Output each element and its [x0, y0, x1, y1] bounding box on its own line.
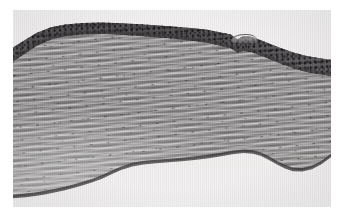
histology-micrograph — [13, 10, 331, 207]
figure-page — [0, 0, 342, 223]
surface-flap — [231, 34, 257, 43]
